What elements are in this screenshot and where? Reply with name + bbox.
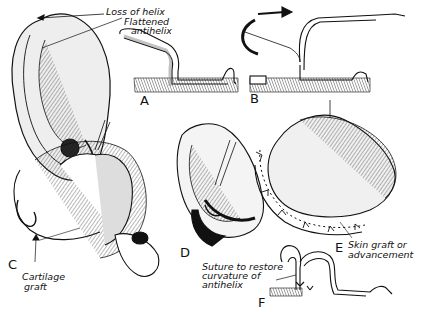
- panel-letter-b: B: [250, 92, 259, 105]
- panel-letter-a: A: [140, 94, 149, 107]
- illustration: Loss of helix Flattened antihelix A B C …: [0, 0, 423, 312]
- panel-b-cross-section: [243, 7, 405, 92]
- label-cartilage: Cartilage: [22, 272, 65, 281]
- panel-letter-f: F: [258, 296, 265, 309]
- label-skin-graft: Skin graft or: [348, 240, 407, 249]
- panel-d-incision: [177, 124, 263, 246]
- panel-letter-e: E: [335, 241, 343, 254]
- label-advancement: advancement: [348, 250, 413, 259]
- label-antihelix-f: antihelix: [202, 280, 243, 289]
- label-loss-of-helix: Loss of helix: [106, 7, 165, 16]
- panel-letter-d: D: [180, 246, 190, 259]
- label-antihelix: antihelix: [131, 26, 172, 35]
- label-graft: graft: [24, 282, 47, 291]
- panel-e-skin-graft: [255, 100, 396, 238]
- panel-a-cross-section: [120, 29, 238, 92]
- panel-letter-c: C: [8, 258, 17, 271]
